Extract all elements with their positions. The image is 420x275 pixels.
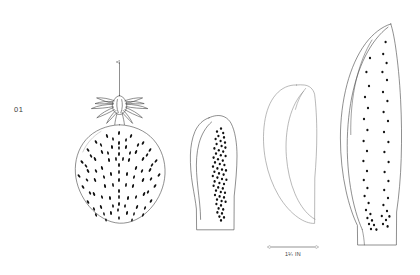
figure-whole-berry <box>75 62 165 223</box>
tall-slice-inner-contour <box>347 27 388 229</box>
tall-slice-outline <box>340 24 401 245</box>
berry-inner-rim <box>83 131 101 152</box>
tall-slice-base-rib <box>362 229 364 244</box>
figure-tall-slice <box>340 24 401 245</box>
figure-plain-slice <box>263 85 316 224</box>
plain-slice-inner-contour <box>286 92 315 220</box>
half-section-achenes <box>212 127 228 221</box>
botanical-plate: 01 1¼ IN <box>0 0 420 275</box>
plain-slice-upper-rib <box>295 88 305 109</box>
calyx <box>91 96 147 125</box>
illustration-canvas <box>0 0 420 275</box>
tall-slice-achenes <box>362 41 390 231</box>
berry-achenes <box>77 131 161 222</box>
berry-outline <box>75 125 165 223</box>
plain-slice-outline <box>263 85 316 224</box>
figure-half-section <box>190 116 237 230</box>
half-section-inner-contour <box>196 122 211 219</box>
